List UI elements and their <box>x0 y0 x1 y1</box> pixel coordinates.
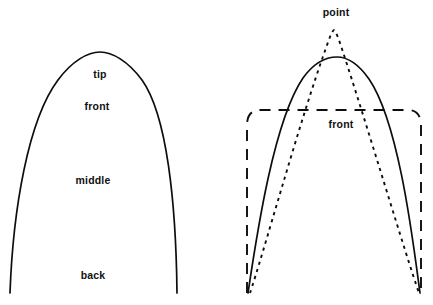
label-front-left: front <box>85 101 110 112</box>
label-point: point <box>323 7 350 18</box>
solid-rounded-outline <box>248 57 420 293</box>
label-front-right: front <box>329 119 354 130</box>
label-tip: tip <box>93 69 106 80</box>
label-back: back <box>81 270 106 281</box>
dashed-squared-outline <box>247 110 421 293</box>
right-overlay-diagram <box>0 0 433 305</box>
figure-canvas: tip front middle back point front <box>0 0 433 305</box>
label-middle: middle <box>75 175 110 186</box>
dotted-pointed-outline <box>250 30 419 293</box>
